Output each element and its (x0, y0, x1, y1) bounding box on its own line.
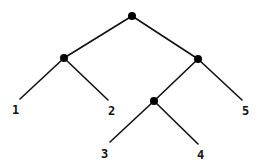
edge-n12-leaf1 (20, 58, 64, 99)
edge-n345-n34 (154, 59, 198, 101)
node-n12 (60, 54, 68, 62)
edge-root-n345 (132, 16, 198, 59)
edge-root-n12 (64, 16, 132, 58)
nodes-group (60, 12, 202, 105)
edge-n12-leaf2 (64, 58, 108, 100)
leaf-label-4: 4 (197, 148, 204, 162)
leaf-label-1: 1 (12, 103, 19, 117)
tree-diagram: 12345 (0, 0, 265, 167)
edges-group (20, 16, 242, 144)
node-root (128, 12, 136, 20)
tree-svg: 12345 (0, 0, 265, 167)
edge-n34-leaf4 (154, 101, 198, 144)
edge-n34-leaf3 (110, 101, 154, 142)
node-n34 (150, 97, 158, 105)
node-n345 (194, 55, 202, 63)
edge-n345-leaf5 (198, 59, 242, 100)
leaf-label-5: 5 (242, 104, 249, 118)
leaf-label-3: 3 (101, 147, 108, 161)
labels-group: 12345 (12, 103, 249, 162)
leaf-label-2: 2 (108, 104, 115, 118)
